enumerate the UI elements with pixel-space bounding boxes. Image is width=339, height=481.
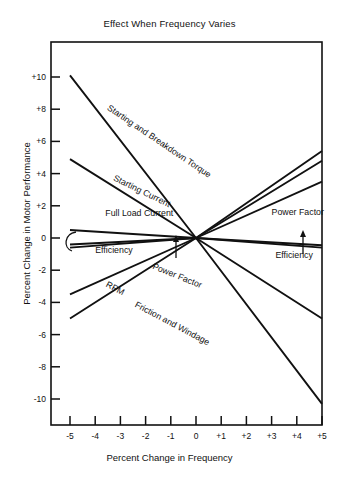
y-tick-label: +6 xyxy=(36,136,46,146)
x-tick-label: +3 xyxy=(267,431,277,441)
y-tick-label: +2 xyxy=(36,201,46,211)
curve-label-right: Power Factor xyxy=(272,207,324,217)
series-line xyxy=(70,75,322,403)
x-tick-label: -2 xyxy=(142,431,150,441)
y-tick-label: +8 xyxy=(36,104,46,114)
x-tick-label: -5 xyxy=(66,431,74,441)
y-tick-label: -8 xyxy=(38,362,46,372)
chart-figure: Effect When Frequency Varies Percent Cha… xyxy=(0,0,339,481)
right-curve-labels: Power FactorEfficiency xyxy=(272,207,324,260)
y-tick-label: +10 xyxy=(32,72,47,82)
y-axis-ticks: +10+8+6+4+20-2-4-6-8-10 xyxy=(32,72,60,404)
x-axis-ticks: -5-4-3-2-10+1+2+3+4+5 xyxy=(66,416,327,441)
x-tick-label: +1 xyxy=(216,431,226,441)
x-tick-label: +4 xyxy=(292,431,302,441)
x-tick-label: -1 xyxy=(167,431,175,441)
y-tick-label: -4 xyxy=(38,297,46,307)
y-tick-label: 0 xyxy=(41,233,46,243)
curve-label: Efficiency xyxy=(95,245,133,255)
y-tick-label: -2 xyxy=(38,265,46,275)
data-lines xyxy=(70,75,322,403)
y-tick-label: +4 xyxy=(36,169,46,179)
chart-plot: +10+8+6+4+20-2-4-6-8-10 -5-4-3-2-10+1+2+… xyxy=(0,0,339,481)
curve-labels: Starting and Breakdown TorqueStarting Cu… xyxy=(95,103,213,348)
curve-label-right: Efficiency xyxy=(275,250,313,260)
x-tick-label: -3 xyxy=(117,431,125,441)
y-tick-label: -10 xyxy=(34,394,47,404)
curve-label: Power Factor xyxy=(151,261,203,290)
series-line xyxy=(70,161,322,248)
plot-frame xyxy=(51,42,322,425)
curve-label: Friction and Windage xyxy=(133,299,211,347)
x-tick-label: +5 xyxy=(317,431,327,441)
y-tick-label: -6 xyxy=(38,330,46,340)
x-tick-label: +2 xyxy=(242,431,252,441)
x-tick-label: 0 xyxy=(194,431,199,441)
x-tick-label: -4 xyxy=(91,431,99,441)
curve-label: Full Load Current xyxy=(105,208,174,218)
